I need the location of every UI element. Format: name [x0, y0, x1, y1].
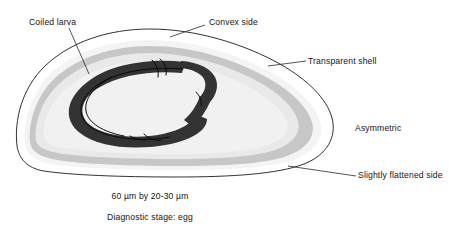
annotation-slightly-flattened-side: Slightly flattened side: [358, 171, 443, 181]
annotation-transparent-shell: Transparent shell: [308, 57, 377, 67]
egg-diagram-figure: Coiled larva Convex side Transparent she…: [0, 0, 467, 233]
annotation-asymmetric: Asymmetric: [355, 124, 401, 134]
leader-flattened-side: [288, 166, 356, 176]
caption-diagnostic-stage: Diagnostic stage: egg: [0, 212, 300, 222]
caption-size: 60 µm by 20-30 µm: [0, 191, 300, 201]
annotation-coiled-larva: Coiled larva: [29, 18, 76, 28]
annotation-convex-side: Convex side: [209, 18, 258, 28]
